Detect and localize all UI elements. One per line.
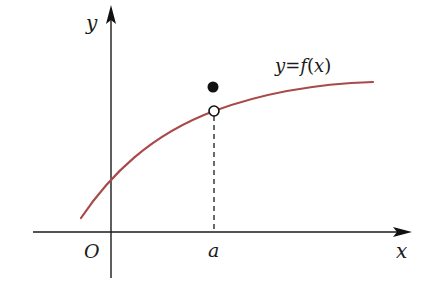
curve-label-x: x — [314, 55, 324, 76]
curve-label-eq: = — [285, 55, 300, 76]
filled-point-fa — [208, 82, 219, 93]
function-graph: y x O a y=f(x) — [0, 0, 431, 296]
a-label: a — [208, 239, 219, 261]
curve-label-lparen: ( — [307, 55, 314, 76]
curve-f — [81, 82, 373, 218]
origin-label: O — [84, 240, 100, 262]
x-axis-label: x — [396, 239, 407, 263]
open-circle-point — [209, 106, 219, 116]
curve-label: y=f(x) — [274, 55, 331, 76]
curve-label-rparen: ) — [324, 55, 331, 76]
y-axis-label: y — [85, 11, 98, 35]
